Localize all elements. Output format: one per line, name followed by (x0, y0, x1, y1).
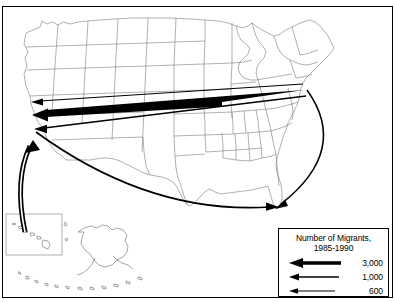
legend-row: 600 (279, 284, 388, 298)
legend-title-line-1: Number of Migrants, (279, 233, 388, 243)
legend-arrow-3000-icon (283, 256, 345, 270)
legend: Number of Migrants, 1985-1990 3,000 1,00… (278, 228, 389, 297)
legend-value: 600 (345, 286, 383, 296)
legend-row: 1,000 (279, 270, 388, 284)
legend-value: 1,000 (345, 272, 383, 282)
legend-title: Number of Migrants, 1985-1990 (279, 229, 388, 253)
legend-row: 3,000 (279, 256, 388, 270)
figure-canvas: Number of Migrants, 1985-1990 3,000 1,00… (0, 0, 395, 302)
legend-value: 3,000 (345, 258, 383, 268)
legend-entries: 3,000 1,000 600 (279, 256, 388, 298)
legend-arrow-600-icon (283, 284, 345, 298)
legend-title-line-2: 1985-1990 (279, 243, 388, 253)
legend-arrow-1000-icon (283, 270, 345, 284)
